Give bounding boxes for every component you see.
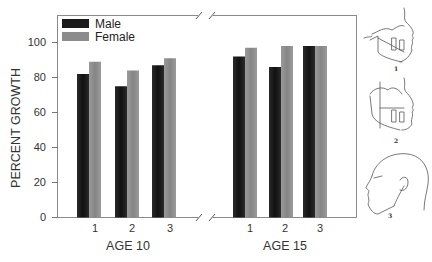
bar-female-age15-1 xyxy=(245,48,257,218)
y-tick-20: 20 xyxy=(34,176,46,188)
bar-male-age15-2 xyxy=(269,67,281,218)
bar-male-age10-2 xyxy=(115,86,127,217)
illustration-3-label: 3 xyxy=(388,212,392,219)
legend-label-female: Female xyxy=(95,30,135,44)
legend-swatch-male xyxy=(62,19,89,28)
y-axis-ticks: 0 20 40 60 80 100 xyxy=(28,36,58,223)
y-tick-40: 40 xyxy=(34,141,46,153)
illustration-1-skull-profile-icon: 1 xyxy=(364,8,413,72)
x-tick-age15-3: 3 xyxy=(317,222,323,234)
bar-female-age10-2 xyxy=(127,71,139,218)
legend-swatch-female xyxy=(62,32,89,41)
x-tick-age10-2: 2 xyxy=(129,222,135,234)
bar-female-age15-3 xyxy=(315,46,327,218)
bar-female-age10-3 xyxy=(164,58,176,217)
x-tick-age15-1: 1 xyxy=(247,222,253,234)
group-label-age10: AGE 10 xyxy=(106,239,150,253)
bar-male-age10-3 xyxy=(152,65,164,217)
bar-female-age15-2 xyxy=(281,46,293,218)
axis-break-bottom-icon xyxy=(196,214,215,221)
bar-male-age10-1 xyxy=(77,74,89,218)
illustration-3-head-profile-icon: 3 xyxy=(366,154,428,219)
legend-label-male: Male xyxy=(95,17,121,31)
percent-growth-chart: PERCENT GROWTH 0 20 40 60 80 100 xyxy=(0,0,432,262)
illustration-2-label: 2 xyxy=(394,137,398,144)
bar-male-age15-1 xyxy=(233,57,245,218)
y-tick-100: 100 xyxy=(28,36,46,48)
y-tick-60: 60 xyxy=(34,106,46,118)
x-tick-age10-1: 1 xyxy=(92,222,98,234)
x-tick-age15-2: 2 xyxy=(282,222,288,234)
y-tick-0: 0 xyxy=(40,211,46,223)
y-axis-title: PERCENT GROWTH xyxy=(9,68,23,188)
legend: Male Female xyxy=(62,17,135,44)
illustration-1-label: 1 xyxy=(394,65,398,72)
x-axis-labels: 1 2 3 1 2 3 AGE 10 AGE 15 xyxy=(92,222,323,253)
bar-female-age10-1 xyxy=(89,62,101,218)
group-label-age15: AGE 15 xyxy=(263,239,307,253)
x-tick-age10-3: 3 xyxy=(167,222,173,234)
axis-break-top-icon xyxy=(196,12,215,19)
y-tick-80: 80 xyxy=(34,71,46,83)
bars xyxy=(77,46,327,218)
bar-male-age15-3 xyxy=(303,46,315,218)
illustration-2-skull-profile-icon: 2 xyxy=(370,78,413,144)
